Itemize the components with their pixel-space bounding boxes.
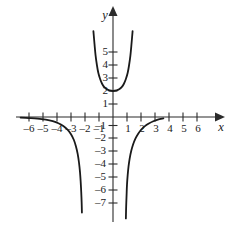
y-tick-label: –1 xyxy=(94,119,106,131)
x-tick-label: 6 xyxy=(195,122,201,134)
x-axis-tick-labels: –6 –5 –4 –3 –2 –1 1 2 3 4 5 6 xyxy=(23,122,202,134)
coordinate-plane: –6 –5 –4 –3 –2 –1 1 2 3 4 5 6 –7 –6 –5 –… xyxy=(0,0,237,230)
x-tick-label: 4 xyxy=(167,122,173,134)
x-tick-label: 3 xyxy=(153,122,159,134)
y-tick-label: –5 xyxy=(94,170,107,182)
x-tick-label: 1 xyxy=(125,122,131,134)
x-tick-label: –2 xyxy=(79,122,91,134)
y-tick-label: 3 xyxy=(103,71,109,83)
y-tick-label: –4 xyxy=(94,157,107,169)
y-axis-label: y xyxy=(100,8,108,22)
x-tick-label: –5 xyxy=(37,122,50,134)
y-tick-label: 5 xyxy=(103,45,109,57)
y-tick-label: –7 xyxy=(94,196,107,208)
y-tick-label: –6 xyxy=(94,183,107,195)
x-tick-label: 5 xyxy=(181,122,187,134)
graph-figure: –6 –5 –4 –3 –2 –1 1 2 3 4 5 6 –7 –6 –5 –… xyxy=(0,0,237,230)
x-axis-label: x xyxy=(217,120,224,134)
y-axis-arrow-icon xyxy=(109,6,118,16)
y-axis-tick-labels: –7 –6 –5 –4 –3 –2 –1 1 2 3 4 5 xyxy=(94,45,109,208)
y-tick-label: –2 xyxy=(94,131,106,143)
y-tick-label: 4 xyxy=(103,58,109,70)
y-tick-label: –3 xyxy=(94,144,107,156)
y-tick-label: 1 xyxy=(103,97,109,109)
x-tick-label: –6 xyxy=(23,122,36,134)
